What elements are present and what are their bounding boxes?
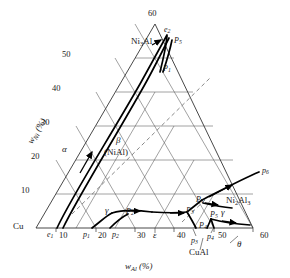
phase-label-epsilon: ε [153,231,157,240]
left-tick-40: 40 [52,84,61,93]
phase-label-beta-nial: (NiAl) [104,148,128,157]
apex-tick-60: 60 [148,9,157,18]
dashed-isopleths [72,78,210,222]
point-label-PT: PT [196,196,204,205]
point-label-p4-axis: p4 [207,233,214,242]
phase-label-theta: θ [237,240,241,249]
phase-label-gamma-left: γ [105,206,109,215]
bottom-tick-30: 30 [137,231,146,240]
phase-label-beta: β [116,136,120,145]
grid-lines [56,24,253,228]
bottom-tick-50: 50 [218,231,227,240]
ternary-phase-diagram: 60 10 20 30 40 50 10 20 30 40 50 60 Cu w… [0,0,290,278]
corner-label-cu: Cu [13,222,24,231]
compound-label-cual: CuAl [189,248,209,257]
point-label-P3-mid: P3 [186,207,194,216]
phase-label-gamma-right: γ [221,208,225,217]
left-tick-20: 20 [31,152,40,161]
point-label-P5-low: P5 [210,211,218,220]
left-tick-10: 10 [21,186,30,195]
x-axis-title: wAl (%) [125,262,153,272]
point-label-P1-upper: P1 [163,65,171,74]
compound-label-ni3al: Ni3Al [131,37,152,47]
bottom-tick-60: 60 [260,231,269,240]
point-label-e1: e1 [47,231,53,240]
left-tick-50: 50 [62,50,71,59]
point-label-P2-mid: P2 [126,208,134,217]
point-label-p2-axis: p2 [112,231,119,240]
bottom-tick-10: 10 [59,231,68,240]
point-label-p3-axis: p3 [191,237,198,246]
point-label-p1-axis: p1 [83,231,90,240]
bottom-tick-40: 40 [177,231,186,240]
point-label-p6: p6 [262,167,269,176]
compound-label-ni2al3: Ni2Al3 [226,196,250,206]
phase-label-alpha: α [62,145,67,154]
point-label-P5-upper: P5 [174,37,182,46]
point-label-e2: e2 [164,26,170,35]
point-label-P4-mid: P4 [199,222,207,231]
bottom-tick-20: 20 [98,231,107,240]
